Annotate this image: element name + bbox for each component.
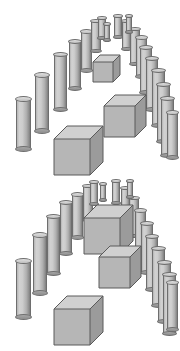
large-cube-lower-left: [54, 126, 103, 175]
cube-front-face: [104, 106, 135, 137]
cube-front-face: [93, 62, 113, 82]
small-cube-apex: [93, 55, 120, 82]
cube-front-face: [54, 309, 90, 345]
cube-front-face: [54, 139, 90, 175]
scene-panel-1: [0, 0, 180, 176]
cube-group: [0, 176, 180, 351]
cube-front-face: [99, 257, 130, 288]
image-canvas: [0, 0, 180, 351]
medium-cube-center: [104, 95, 146, 137]
large-cube-lower-left: [54, 296, 103, 345]
medium-cube-center: [99, 246, 141, 288]
cube-group: [0, 0, 180, 176]
scene-panel-2: [0, 176, 180, 351]
